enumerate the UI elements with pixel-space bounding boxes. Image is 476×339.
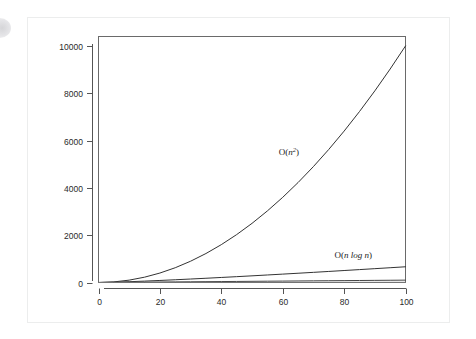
x-tick-label: 40 — [217, 297, 227, 307]
x-tick-label: 100 — [399, 297, 413, 307]
n-squared-label: O(n2) — [279, 146, 299, 157]
chart-svg: 0200040006000800010000 020406080100 O(n2… — [0, 0, 476, 339]
n-log-n-label: O(n log n) — [335, 250, 373, 260]
y-tick-labels: 0200040006000800010000 — [59, 42, 83, 289]
plot-frame — [99, 37, 406, 283]
y-tick-label: 4000 — [64, 184, 83, 194]
complexity-chart: 0200040006000800010000 020406080100 O(n2… — [0, 0, 476, 339]
x-tick-label: 60 — [279, 297, 289, 307]
curve-annotations: O(n2)O(n log n) — [279, 146, 372, 260]
screenshot-root: 0200040006000800010000 020406080100 O(n2… — [0, 0, 476, 339]
y-tick-label: 6000 — [64, 137, 83, 147]
x-tick-labels: 020406080100 — [97, 297, 414, 307]
y-axis: 0200040006000800010000 — [59, 42, 92, 289]
y-tick-label: 10000 — [59, 42, 83, 52]
y-tick-marks — [87, 47, 93, 284]
y-tick-label: 0 — [78, 279, 83, 289]
series-line-o-n-2 — [99, 46, 406, 283]
y-tick-label: 2000 — [64, 231, 83, 241]
x-tick-label: 20 — [156, 297, 166, 307]
y-tick-label: 8000 — [64, 89, 83, 99]
x-axis: 020406080100 — [97, 289, 414, 308]
series-group — [99, 46, 406, 283]
x-tick-label: 80 — [340, 297, 350, 307]
x-tick-marks — [100, 289, 407, 295]
x-tick-label: 0 — [97, 297, 102, 307]
